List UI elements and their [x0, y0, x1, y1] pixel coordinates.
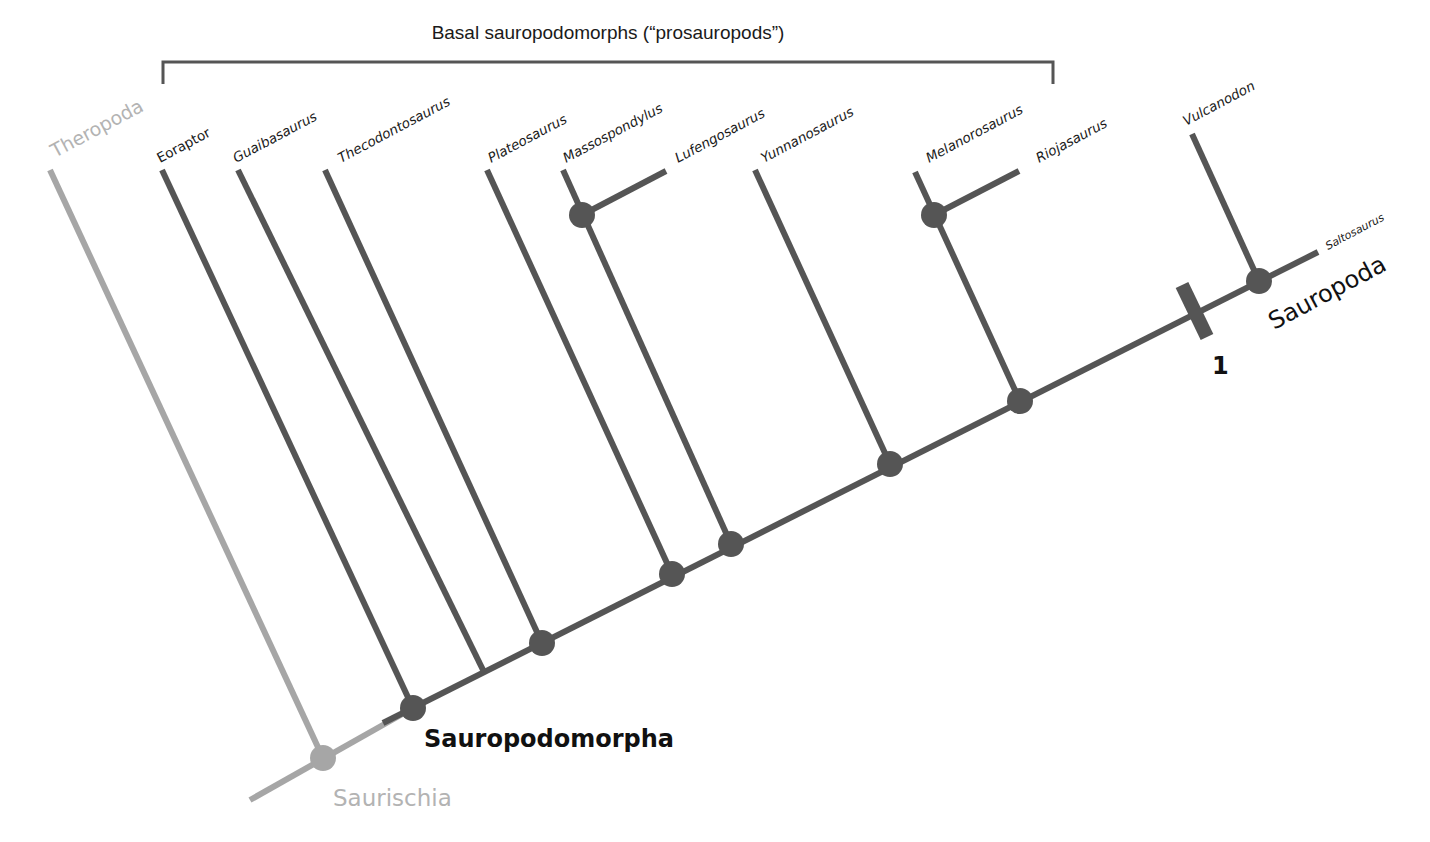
taxon-label-saltosaurus: Saltosaurus — [1323, 211, 1386, 253]
taxon-label-guaibasaurus: Guaibasaurus — [230, 108, 320, 166]
cladogram-svg: Basal sauropodomorphs (“prosauropods”) T… — [0, 0, 1430, 842]
clade-node — [1007, 388, 1033, 414]
branch-line — [162, 170, 413, 708]
branch-line — [487, 170, 672, 574]
bracket-label: Basal sauropodomorphs (“prosauropods”) — [432, 22, 785, 43]
branch-line — [582, 171, 666, 215]
clade-label-saurischia: Saurischia — [333, 785, 452, 811]
taxon-label-vulcanodon: Vulcanodon — [1180, 77, 1257, 128]
taxon-label-lufengosaurus: Lufengosaurus — [672, 105, 767, 166]
branch-line — [1192, 134, 1259, 281]
synapomorphy-marker-label: 1 — [1212, 352, 1229, 380]
clade-node — [718, 531, 744, 557]
taxon-label-thecodontosaurus: Thecodontosaurus — [335, 93, 453, 166]
spine-main — [383, 252, 1318, 723]
taxon-label-plateosaurus: Plateosaurus — [485, 111, 569, 166]
prosauropod-bracket: Basal sauropodomorphs (“prosauropods”) — [163, 22, 1053, 84]
clade-node — [310, 745, 336, 771]
clade-node — [877, 451, 903, 477]
taxon-label-eoraptor: Eoraptor — [154, 124, 213, 166]
taxon-label-melanorosaurus: Melanorosaurus — [923, 101, 1026, 166]
bracket-line — [163, 62, 1053, 84]
clade-node — [1246, 268, 1272, 294]
clade-node — [921, 202, 947, 228]
clade-label-sauropoda: Sauropoda — [1264, 250, 1391, 335]
clade-node — [529, 630, 555, 656]
clade-node — [400, 695, 426, 721]
clade-node — [659, 561, 685, 587]
branch-line — [755, 170, 890, 464]
sauropodomorph-cladogram: Basal sauropodomorphs (“prosauropods”) T… — [0, 0, 1430, 842]
taxon-label-yunnanosaurus: Yunnanosaurus — [758, 103, 856, 165]
taxon-label-massospondylus: Massospondylus — [560, 100, 665, 166]
taxon-labels: Theropoda Eoraptor Guaibasaurus Thecodon… — [46, 77, 1387, 252]
clade-node — [569, 202, 595, 228]
branch-line — [934, 171, 1019, 215]
taxon-label-theropoda: Theropoda — [46, 94, 147, 162]
clade-label-sauropodomorpha: Sauropodomorpha — [424, 725, 674, 753]
taxon-label-riojasaurus: Riojasaurus — [1033, 115, 1110, 166]
tree-branches — [50, 134, 1318, 800]
